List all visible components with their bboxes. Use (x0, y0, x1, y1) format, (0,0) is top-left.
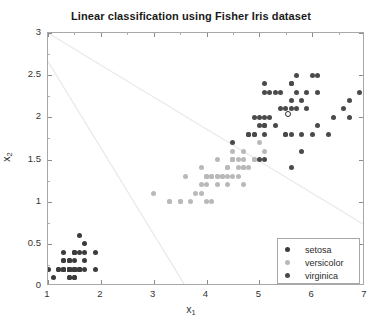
legend[interactable]: setosa versicolor virginica (277, 238, 360, 284)
data-point-versicolor (257, 140, 262, 145)
data-point-setosa (67, 275, 72, 280)
legend-label-virginica: virginica (305, 271, 338, 281)
data-point-setosa (72, 275, 77, 280)
data-point-virginica (252, 115, 257, 120)
legend-label-setosa: setosa (305, 245, 332, 255)
boundary-setosa-versicolor (48, 62, 185, 285)
x-tick-minor (339, 33, 340, 35)
data-point-virginica (357, 90, 362, 95)
y-tick-label-0.5: 0.5 (11, 237, 41, 248)
x-tick-3 (154, 280, 155, 284)
data-point-virginica (246, 132, 251, 137)
data-point-virginica (289, 98, 294, 103)
x-tick-4 (207, 280, 208, 284)
legend-item-versicolor[interactable]: versicolor (278, 256, 359, 269)
data-point-virginica (315, 90, 320, 95)
data-point-versicolor (236, 174, 241, 179)
x-tick-1 (48, 280, 49, 284)
data-point-virginica (262, 132, 267, 137)
data-point-versicolor (178, 199, 183, 204)
legend-item-virginica[interactable]: virginica (278, 269, 359, 282)
data-point-versicolor (183, 174, 188, 179)
page-title: Linear classification using Fisher Iris … (0, 10, 382, 22)
x-tick-2 (101, 280, 102, 284)
data-point-versicolor (204, 174, 209, 179)
data-point-versicolor (241, 149, 246, 154)
y-tick-label-3: 3 (11, 26, 41, 37)
data-point-virginica (326, 132, 331, 137)
legend-marker-versicolor-icon (285, 260, 290, 265)
y-tick-1 (359, 202, 363, 203)
y-tick-minor (48, 96, 50, 97)
data-point-virginica (252, 132, 257, 137)
data-point-setosa (67, 267, 72, 272)
x-tick-4 (207, 33, 208, 37)
data-point-setosa (77, 250, 82, 255)
x-tick-label-7: 7 (349, 288, 379, 299)
data-point-virginica (310, 73, 315, 78)
data-point-versicolor (220, 174, 225, 179)
data-point-virginica (262, 90, 267, 95)
data-point-virginica (347, 98, 352, 103)
data-point-virginica (262, 115, 267, 120)
data-point-setosa (47, 267, 51, 272)
x-tick-minor (180, 33, 181, 35)
data-point-setosa (72, 250, 77, 255)
data-point-setosa (93, 250, 98, 255)
y-tick-label-1: 1 (11, 195, 41, 206)
y-tick-1.5 (48, 160, 52, 161)
data-point-versicolor (236, 157, 241, 162)
y-tick-2.5 (48, 75, 52, 76)
data-point-setosa (56, 267, 61, 272)
data-point-virginica (289, 132, 294, 137)
y-tick-0.5 (48, 244, 52, 245)
data-point-setosa (72, 267, 77, 272)
x-tick-label-6: 6 (296, 288, 326, 299)
data-point-virginica (273, 90, 278, 95)
x-tick-minor (286, 33, 287, 35)
data-point-setosa (51, 275, 56, 280)
y-tick-3 (48, 33, 52, 34)
data-point-virginica (257, 157, 262, 162)
x-tick-2 (101, 33, 102, 37)
y-tick-label-2.5: 2.5 (11, 68, 41, 79)
data-point-versicolor (215, 182, 220, 187)
y-tick-minor (48, 54, 50, 55)
data-point-versicolor (151, 191, 156, 196)
data-point-setosa (67, 258, 72, 263)
x-axis-label-subscript: 1 (192, 308, 196, 317)
y-tick-minor (48, 138, 50, 139)
data-point-virginica (304, 90, 309, 95)
y-tick-1 (48, 202, 52, 203)
data-point-virginica (283, 132, 288, 137)
data-point-versicolor (199, 191, 204, 196)
x-tick-5 (259, 280, 260, 284)
y-tick-label-2: 2 (11, 110, 41, 121)
data-point-versicolor (215, 174, 220, 179)
y-tick-2 (359, 117, 363, 118)
y-axis-label: x2 (0, 137, 14, 177)
data-point-versicolor (225, 174, 230, 179)
data-point-virginica (267, 90, 272, 95)
x-tick-3 (154, 33, 155, 37)
x-tick-5 (259, 33, 260, 37)
y-tick-minor (48, 181, 50, 182)
x-tick-minor (233, 33, 234, 35)
data-point-versicolor (252, 157, 257, 162)
x-axis-label: x1 (0, 303, 382, 317)
figure-container: Linear classification using Fisher Iris … (0, 0, 382, 329)
legend-item-setosa[interactable]: setosa (278, 243, 359, 256)
data-point-versicolor (241, 157, 246, 162)
data-point-virginica (294, 90, 299, 95)
x-tick-label-4: 4 (191, 288, 221, 299)
data-point-setosa (77, 267, 82, 272)
data-point-virginica (257, 115, 262, 120)
y-tick-minor (48, 265, 50, 266)
y-tick-label-1.5: 1.5 (11, 153, 41, 164)
data-point-virginica (310, 132, 315, 137)
x-tick-label-2: 2 (85, 288, 115, 299)
data-point-versicolor (262, 149, 267, 154)
x-tick-minor (74, 33, 75, 35)
y-tick-label-0: 0 (11, 279, 41, 290)
data-point-virginica (294, 73, 299, 78)
